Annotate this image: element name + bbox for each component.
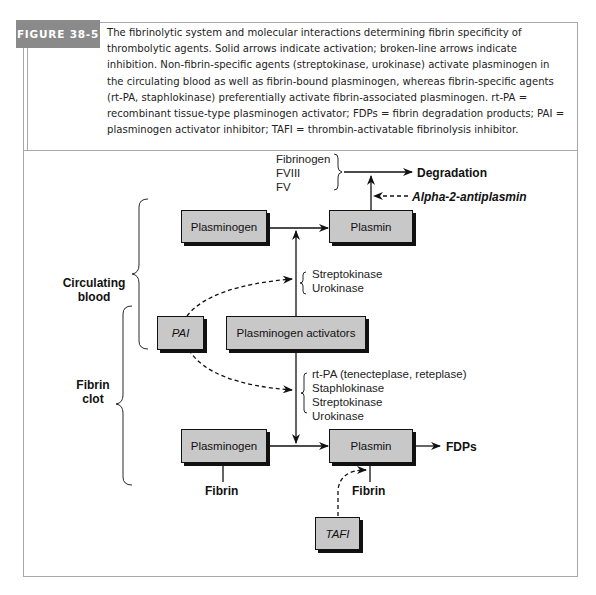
clot-brace [116, 306, 132, 485]
substrates-brace [334, 154, 342, 190]
plasminogen-clot-box: Plasminogen [181, 429, 267, 463]
fibrin-right-label: Fibrin [352, 484, 385, 498]
clot-agents-brace [301, 373, 307, 413]
circulating-brace [132, 199, 148, 349]
alpha2-antiplasmin-label: Alpha-2-antiplasmin [412, 190, 527, 204]
pai-clot-inhibition [189, 350, 292, 390]
degradation-label: Degradation [417, 166, 487, 180]
fibrin-clot-label-line1: Fibrin [72, 378, 114, 392]
circulating-agent-urokinase: Urokinase [312, 281, 364, 295]
circulating-blood-label-line2: blood [61, 290, 127, 304]
tafi-box: TAFI [315, 517, 360, 550]
plasminogen-activators-box: Plasminogen activators [226, 316, 366, 350]
substrate-fviii: FVIII [276, 166, 300, 180]
fibrin-clot-label-line2: clot [72, 392, 114, 406]
clot-agent-streptokinase: Streptokinase [312, 395, 382, 409]
clot-agent-rtpa: rt-PA (tenecteplase, reteplase) [312, 367, 466, 381]
clot-agent-staphlokinase: Staphlokinase [312, 381, 384, 395]
clot-agent-urokinase: Urokinase [312, 409, 364, 423]
circulating-agents-brace [300, 272, 306, 294]
circulating-agent-streptokinase: Streptokinase [312, 267, 382, 281]
circulating-blood-label-line1: Circulating [61, 276, 127, 290]
plasmin-clot-box: Plasmin [329, 429, 413, 463]
pai-circulating-inhibition [187, 279, 292, 316]
plasminogen-circulating-box: Plasminogen [181, 210, 267, 243]
fdps-label: FDPs [446, 440, 477, 454]
fibrin-left-label: Fibrin [205, 484, 238, 498]
plasmin-circulating-box: Plasmin [329, 210, 413, 243]
pai-box: PAI [157, 316, 204, 350]
substrate-fv: FV [276, 180, 291, 194]
substrate-fibrinogen: Fibrinogen [276, 152, 330, 166]
